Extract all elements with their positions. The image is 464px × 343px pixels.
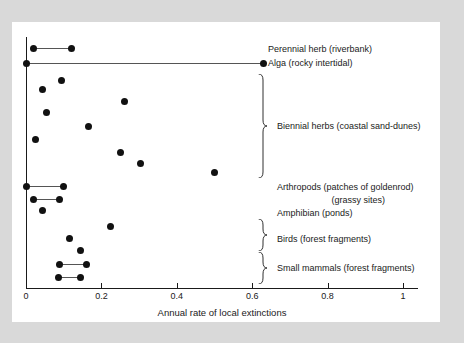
- x-tick-label: 1: [400, 291, 405, 301]
- range-connector-line: [26, 186, 64, 187]
- series-label: Small mammals (forest fragments): [277, 263, 415, 273]
- data-point: [83, 261, 90, 268]
- data-point: [260, 60, 267, 67]
- data-point: [66, 235, 73, 242]
- data-point: [23, 183, 30, 190]
- data-point: [30, 45, 37, 52]
- data-point: [56, 196, 63, 203]
- range-connector-line: [34, 48, 72, 49]
- data-point: [56, 261, 63, 268]
- small-mammals-brace: [258, 252, 270, 284]
- series-label: Alga (rocky intertidal): [268, 58, 353, 68]
- data-point: [77, 274, 84, 281]
- data-point: [68, 45, 75, 52]
- range-connector-line: [26, 63, 264, 64]
- x-tick-label: 0.4: [171, 291, 184, 301]
- data-point: [32, 136, 39, 143]
- x-tick: [252, 283, 253, 288]
- x-tick-label: 0.6: [246, 291, 259, 301]
- series-label: Perennial herb (riverbank): [268, 44, 372, 54]
- data-point: [77, 247, 84, 254]
- x-tick-label: 0.2: [95, 291, 108, 301]
- data-point: [117, 149, 124, 156]
- data-point: [43, 109, 50, 116]
- y-axis-line: [26, 37, 27, 289]
- series-label: Biennial herbs (coastal sand-dunes): [277, 121, 421, 131]
- data-point: [39, 86, 46, 93]
- x-tick: [101, 283, 102, 288]
- data-point: [211, 169, 218, 176]
- data-point: [55, 274, 62, 281]
- birds-brace: [258, 219, 270, 251]
- data-point: [85, 123, 92, 130]
- series-label: Arthropods (patches of goldenrod): [277, 182, 414, 192]
- x-tick-label: 0.8: [321, 291, 334, 301]
- series-label: Birds (forest fragments): [277, 234, 371, 244]
- data-point: [107, 223, 114, 230]
- series-label: (grassy sites): [331, 195, 385, 205]
- series-label: Amphibian (ponds): [277, 208, 353, 218]
- x-tick: [177, 283, 178, 288]
- x-tick: [328, 283, 329, 288]
- data-point: [60, 183, 67, 190]
- x-tick: [26, 283, 27, 288]
- data-point: [39, 207, 46, 214]
- x-tick: [403, 283, 404, 288]
- figure-container: 00.20.40.60.81 Perennial herb (riverbank…: [0, 0, 464, 343]
- biennial-herbs-brace: [258, 74, 270, 178]
- x-axis-title: Annual rate of local extinctions: [26, 307, 418, 318]
- x-axis-line: [26, 288, 418, 289]
- data-point: [23, 60, 30, 67]
- data-point: [58, 77, 65, 84]
- x-tick-label: 0: [23, 291, 28, 301]
- data-point: [121, 98, 128, 105]
- data-point: [30, 196, 37, 203]
